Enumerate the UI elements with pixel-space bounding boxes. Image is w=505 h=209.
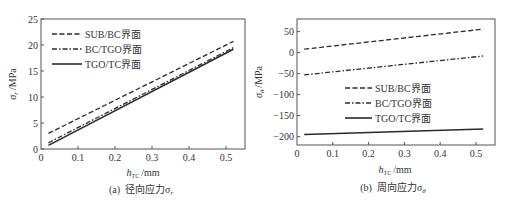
caption-a: (a)径向应力σr — [109, 183, 174, 197]
y-tick-label: 0 — [33, 144, 38, 155]
legend-label: SUB/BC界面 — [375, 83, 431, 94]
x-tick-label: 0.5 — [220, 152, 233, 163]
x-tick-label: 0.4 — [434, 148, 447, 159]
y-tick-label: 25 — [28, 14, 38, 25]
legend-label: SUB/BC界面 — [85, 29, 141, 40]
x-tick-label: 0.2 — [109, 152, 122, 163]
y-tick-label: −150 — [273, 110, 294, 121]
chart-panel-a: 00.10.20.30.40.50510152025 SUB/BC界面BC/TG… — [7, 14, 245, 198]
x-tick-label: 0.1 — [72, 152, 85, 163]
x-tick-label: 0 — [39, 152, 44, 163]
y-tick-label: 10 — [28, 92, 38, 103]
x-tick-label: 0.3 — [146, 152, 159, 163]
series-line-1 — [304, 56, 483, 75]
y-tick-label: 5 — [33, 118, 38, 129]
x-axis-label: hTC/mm — [378, 164, 411, 176]
x-tick-label: 0.4 — [183, 152, 196, 163]
legend-label: BC/TGO界面 — [85, 44, 142, 55]
legend-label: TGO/TC界面 — [375, 113, 431, 124]
series-line-0 — [304, 29, 483, 49]
y-tick-label: −50 — [278, 68, 294, 79]
y-tick-label: −100 — [273, 89, 294, 100]
x-tick-label: 0.3 — [398, 148, 411, 159]
y-tick-label: 15 — [28, 66, 38, 77]
y-tick-label: 0 — [289, 47, 294, 58]
y-axis-label: σθ/MPa — [253, 65, 266, 98]
y-axis-label: σr/MPa — [7, 68, 20, 100]
data-series — [48, 41, 233, 145]
x-tick-label: 0.2 — [362, 148, 375, 159]
y-tick-label: 20 — [28, 40, 38, 51]
y-tick-label: −200 — [273, 131, 294, 142]
legend: SUB/BC界面BC/TGO界面TGO/TC界面 — [52, 29, 142, 70]
legend-label: TGO/TC界面 — [85, 59, 141, 70]
legend: SUB/BC界面BC/TGO界面TGO/TC界面 — [345, 83, 432, 124]
series-line-2 — [304, 129, 483, 135]
legend-label: BC/TGO界面 — [375, 98, 432, 109]
chart-panel-b: 00.10.20.30.40.5−200−150−100−50050 SUB/B… — [253, 19, 495, 195]
caption-b: (b)周向应力σθ — [360, 181, 426, 195]
x-axis-label: hTC/mm — [126, 167, 159, 179]
y-tick-label: 50 — [284, 26, 294, 37]
figure: 00.10.20.30.40.50510152025 SUB/BC界面BC/TG… — [0, 0, 505, 209]
series-line-0 — [48, 41, 233, 133]
x-tick-label: 0.5 — [470, 148, 483, 159]
plot-frame — [41, 19, 245, 149]
x-tick-label: 0 — [295, 148, 300, 159]
x-tick-label: 0.1 — [327, 148, 340, 159]
